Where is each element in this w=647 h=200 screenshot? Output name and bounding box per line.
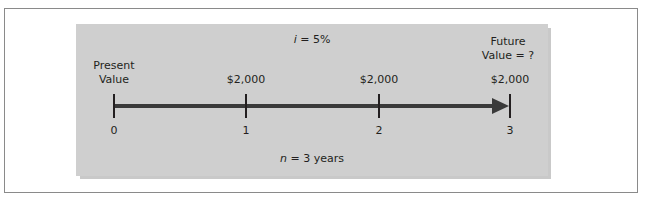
- future-value-label: FutureValue = ?: [482, 35, 534, 63]
- tick-3: [509, 94, 511, 118]
- future-value-line2: Value = ?: [482, 49, 534, 63]
- interest-value: = 5%: [297, 33, 331, 46]
- interest-rate-label: i = 5%: [294, 33, 331, 47]
- period-1: 1: [243, 124, 250, 138]
- period-0: 0: [111, 124, 118, 138]
- timeline-line: [113, 104, 497, 108]
- cash-flow-2: $2,000: [360, 73, 399, 87]
- period-3: 3: [507, 124, 514, 138]
- periods-label: n = 3 years: [280, 152, 344, 166]
- present-value-line2: Value: [93, 73, 134, 87]
- tick-1: [245, 94, 247, 118]
- present-value-label: PresentValue: [93, 59, 134, 87]
- cash-flow-3: $2,000: [491, 73, 530, 87]
- arrow-head-icon: [492, 98, 509, 114]
- tick-0: [113, 94, 115, 118]
- period-2: 2: [376, 124, 383, 138]
- future-value-line1: Future: [482, 35, 534, 49]
- cash-flow-1: $2,000: [227, 73, 266, 87]
- periods-value: = 3 years: [287, 152, 344, 165]
- periods-var: n: [280, 152, 287, 165]
- tick-2: [378, 94, 380, 118]
- present-value-line1: Present: [93, 59, 134, 73]
